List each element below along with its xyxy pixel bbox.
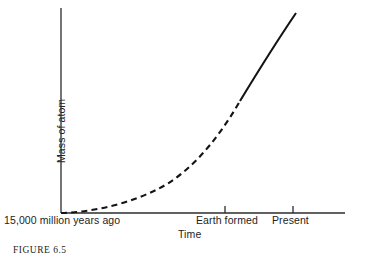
x-tick-label-earth-formed: Earth formed <box>196 215 258 227</box>
figure-container: Mass of atom 15,000 million years ago Ea… <box>0 0 365 263</box>
curve-dashed-segment <box>61 101 240 213</box>
x-tick-label-present: Present <box>272 215 309 227</box>
figure-caption: FIGURE 6.5 <box>13 245 67 255</box>
y-axis-title: Mass of atom <box>55 43 67 163</box>
x-tick-label-start: 15,000 million years ago <box>4 215 120 227</box>
curve-solid-segment <box>240 13 296 101</box>
x-axis-title: Time <box>178 229 201 241</box>
